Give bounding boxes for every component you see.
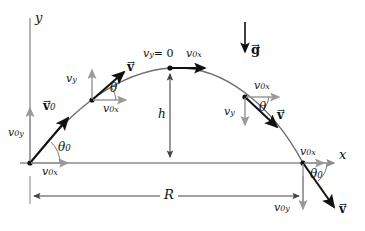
gravity-label: →g bbox=[251, 43, 260, 56]
ascending-v-accent: → bbox=[127, 58, 132, 68]
descending-vy-label: vy bbox=[224, 106, 235, 117]
launch-v0-label: →v0 bbox=[43, 100, 55, 112]
descending-v0x-label: v0x bbox=[254, 80, 270, 91]
apex-vy-zero-label: vy= 0 bbox=[143, 48, 173, 59]
ascending-v-label: →v bbox=[127, 61, 134, 73]
landing-v-label: →v bbox=[339, 203, 346, 215]
ascending-v0x-label: v0x bbox=[103, 103, 119, 114]
landing-v-accent: → bbox=[339, 200, 344, 210]
landing-theta0-label: θ0 bbox=[310, 168, 323, 180]
ascending-v-vector bbox=[92, 72, 124, 100]
x-axis-label: x bbox=[339, 148, 346, 161]
launch-v0-accent: → bbox=[43, 97, 48, 107]
apex-v0x-label: v0x bbox=[186, 48, 202, 59]
launch-theta0-label: θ0 bbox=[58, 141, 71, 153]
height-label: h bbox=[158, 108, 166, 120]
landing-v0y-label: v0y bbox=[274, 202, 290, 213]
launch-v0y-label: v0y bbox=[8, 127, 24, 138]
landing-v0x-label: v0x bbox=[300, 146, 316, 157]
gravity-vector-accent: → bbox=[251, 40, 258, 50]
descending-theta-label: θ bbox=[259, 101, 266, 113]
projectile-diagram-canvas bbox=[0, 0, 365, 231]
descending-v-accent: → bbox=[277, 106, 282, 116]
ascending-vy-label: vy bbox=[66, 73, 77, 84]
descending-v-label: →v bbox=[277, 109, 284, 121]
ascending-theta-label: θ bbox=[110, 82, 117, 94]
y-axis-label: y bbox=[35, 11, 42, 24]
range-label: R bbox=[160, 188, 178, 201]
launch-v0x-label: v0x bbox=[42, 166, 58, 177]
projectile-motion-figure: y x →g v0y →v0 θ0 v0x vy →v θ v0x vy= 0 … bbox=[0, 0, 365, 231]
